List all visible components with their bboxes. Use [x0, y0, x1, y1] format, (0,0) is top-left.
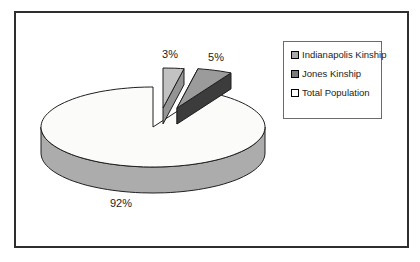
data-label-jones-kinship: 5% [208, 51, 224, 63]
legend-item-jones-kinship[interactable]: Jones Kinship [291, 69, 381, 79]
legend-swatch-icon [291, 70, 299, 78]
chart-legend: Indianapolis Kinship Jones Kinship Total… [283, 41, 382, 119]
data-label-total-population: 92% [110, 197, 132, 209]
legend-item-total-population[interactable]: Total Population [291, 88, 381, 98]
legend-label: Jones Kinship [302, 69, 361, 79]
pie-slice-total-population-top[interactable] [41, 87, 265, 167]
legend-swatch-icon [291, 89, 299, 97]
document-page: 3%5%92% Indianapolis Kinship Jones Kinsh… [0, 0, 420, 262]
legend-swatch-icon [291, 51, 299, 59]
pie-chart: 3%5%92% [0, 0, 420, 262]
legend-item-indianapolis-kinship[interactable]: Indianapolis Kinship [291, 50, 381, 60]
legend-label: Indianapolis Kinship [302, 50, 387, 60]
data-label-indianapolis-kinship: 3% [162, 48, 178, 60]
legend-label: Total Population [302, 88, 370, 98]
